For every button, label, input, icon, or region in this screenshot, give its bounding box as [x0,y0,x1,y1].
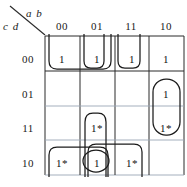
top-variables-label: a b [26,7,43,19]
cell-r00-c00: 1 [45,53,79,65]
column-header-01: 01 [80,20,114,32]
cell-r01-c10: 1 [149,88,183,100]
cell-r00-c10: 1 [149,53,183,65]
column-header-00: 00 [45,20,79,32]
side-variables-label: c d [3,20,19,32]
row-header-01: 01 [14,88,42,100]
cell-r10-c01: 1 [80,157,114,169]
cell-r10-c11: 1* [115,157,149,169]
row-header-00: 00 [14,53,42,65]
cell-r11-c10: 1* [149,122,183,134]
row-header-10: 10 [14,157,42,169]
cell-r00-c11: 1 [115,53,149,65]
column-header-10: 10 [149,20,183,32]
cell-r10-c00: 1* [45,157,79,169]
cell-r00-c01: 1 [80,53,114,65]
cell-r11-c01: 1* [80,122,114,134]
column-header-11: 11 [114,20,148,32]
corner-header: a b c d [0,0,46,36]
row-header-11: 11 [14,122,42,134]
karnaugh-map-diagram: a b c d 00 01 11 10 00 01 11 10 1 1 1 1 … [0,0,187,187]
